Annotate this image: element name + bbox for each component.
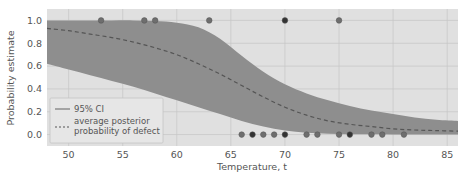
y-axis-ticks: 0.00.20.40.60.81.0	[27, 15, 42, 140]
x-tick-label: 80	[387, 149, 399, 160]
y-axis-label: Probability estimate	[5, 30, 16, 125]
y-tick-label: 0.0	[27, 129, 42, 140]
data-point	[142, 18, 148, 24]
data-point	[250, 132, 256, 138]
x-tick-label: 50	[63, 149, 75, 160]
data-point	[336, 132, 342, 138]
data-point	[401, 132, 407, 138]
data-point	[206, 18, 212, 24]
x-axis-ticks: 5055606570758085	[63, 149, 454, 160]
x-tick-label: 85	[441, 149, 453, 160]
data-point	[261, 132, 267, 138]
data-point	[379, 132, 385, 138]
data-point	[336, 18, 342, 24]
legend-mean-label: average posterior	[74, 116, 150, 126]
y-tick-label: 0.2	[27, 106, 42, 117]
data-point	[304, 132, 310, 138]
data-point	[98, 18, 104, 24]
legend: 95% CIaverage posteriorprobability of de…	[50, 98, 163, 143]
x-tick-label: 65	[225, 149, 237, 160]
y-tick-label: 1.0	[27, 15, 42, 26]
data-point	[271, 132, 277, 138]
data-point	[282, 132, 288, 138]
probability-chart: 5055606570758085 0.00.20.40.60.81.0 Temp…	[0, 0, 476, 178]
x-tick-label: 60	[171, 149, 183, 160]
data-point	[315, 132, 321, 138]
figure: 5055606570758085 0.00.20.40.60.81.0 Temp…	[0, 0, 476, 178]
data-point	[239, 132, 245, 138]
data-point	[152, 18, 158, 24]
x-tick-label: 55	[117, 149, 129, 160]
y-tick-label: 0.8	[27, 38, 42, 49]
legend-ci-label: 95% CI	[74, 104, 104, 114]
y-tick-label: 0.6	[27, 60, 42, 71]
legend-mean-label: probability of defect	[74, 126, 160, 136]
y-tick-label: 0.4	[27, 83, 42, 94]
data-point	[369, 132, 375, 138]
x-tick-label: 70	[279, 149, 291, 160]
data-point	[282, 18, 288, 24]
data-point	[347, 132, 353, 138]
x-axis-label: Temperature, t	[216, 161, 287, 172]
x-tick-label: 75	[333, 149, 345, 160]
